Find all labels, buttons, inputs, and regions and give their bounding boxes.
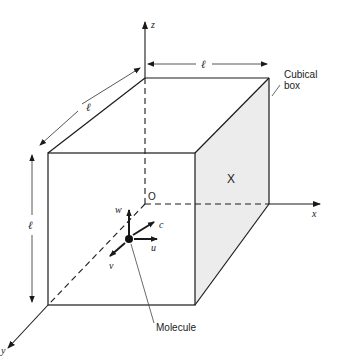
- molecule: [125, 235, 133, 243]
- z-axis-label: z: [150, 19, 155, 30]
- molecule-leader: [131, 244, 154, 323]
- face-label-x: X: [227, 172, 235, 186]
- molecule-label: Molecule: [156, 322, 196, 333]
- box-label-leader: [272, 85, 280, 96]
- dimension-label-top: ℓ: [201, 58, 206, 70]
- vector-label-v: v: [109, 260, 114, 271]
- vector-label-w: w: [115, 204, 122, 215]
- box-label-line2: box: [284, 80, 300, 91]
- dimension-label-height: ℓ: [28, 219, 33, 231]
- vector-label-c: c: [159, 219, 164, 230]
- dimension-label-depth: ℓ: [86, 101, 91, 113]
- origin-label: O: [148, 191, 156, 202]
- axes: [8, 22, 320, 348]
- box-label-line1: Cubical: [284, 69, 317, 80]
- y-axis-label: y: [0, 345, 6, 356]
- x-axis-label: x: [311, 208, 317, 219]
- vector-v: [110, 243, 125, 256]
- vector-label-u: u: [151, 242, 156, 253]
- y-axis: [8, 305, 48, 348]
- cubical-box-diagram: z x y O ℓ ℓ ℓ X Cubical box w c u v Mole…: [0, 0, 342, 360]
- vector-c: [133, 222, 154, 235]
- shaded-face-x: [195, 78, 269, 305]
